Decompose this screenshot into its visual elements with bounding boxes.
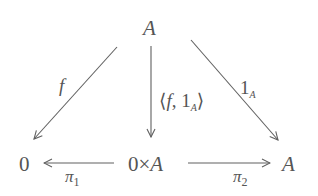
commutative-diagram: A 0 0×A A f ⟨f, 1A⟩ 1A π1 π2 [0,0,318,196]
pair-comma: , [172,90,177,111]
angle-close: ⟩ [197,90,204,111]
node-zero: 0 [19,154,30,175]
label-pi2: π2 [233,168,248,185]
product-left: 0 [128,152,139,176]
pi1-sub: 1 [74,175,80,189]
node-bottom-A: A [282,154,295,175]
product-times: × [139,152,151,176]
label-identity: 1A [240,78,256,97]
node-top-A: A [143,18,156,39]
label-f: f [59,76,64,95]
pi2-pi: π [233,167,242,186]
pair-one: 1 [181,90,191,111]
node-product: 0×A [128,154,163,175]
label-pairing: ⟨f, 1A⟩ [159,91,204,110]
identity-sub: A [250,89,256,100]
identity-one: 1 [240,77,250,98]
arrow-f [34,47,117,139]
pi2-sub: 2 [242,175,248,189]
pair-sub: A [191,102,197,113]
pi1-pi: π [65,167,74,186]
label-pi1: π1 [65,168,80,185]
product-right: A [150,152,163,176]
